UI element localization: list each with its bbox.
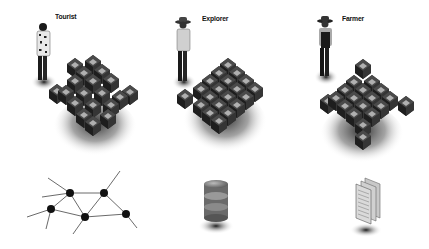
explorer-panel — [172, 17, 267, 234]
database-cylinder-icon — [198, 180, 234, 234]
farmer-figure-icon — [317, 16, 333, 76]
network-graph-icon — [27, 171, 137, 234]
farmer-panel — [314, 16, 414, 237]
tourist-figure-icon — [37, 23, 50, 80]
tourist-panel — [27, 23, 138, 234]
explorer-label: Explorer — [202, 14, 228, 23]
explorer-figure-icon — [175, 17, 191, 81]
diagram-canvas — [0, 0, 429, 249]
tourist-label: Tourist — [55, 12, 76, 21]
farmer-label: Farmer — [342, 14, 364, 23]
document-stack-icon — [350, 178, 382, 237]
